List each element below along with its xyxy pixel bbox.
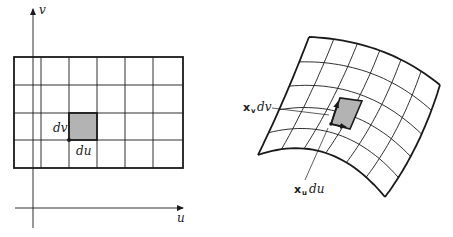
xu-du-label: x u du [294,182,324,197]
surface-edge [385,85,440,197]
xu-leader-line [305,128,328,180]
surface-patch-panel: x v dv x u du [243,37,440,197]
dv-label: dv [53,121,68,135]
parameter-domain-panel: v u dv du [14,3,185,228]
surface-base-point [329,122,333,126]
svg-text:x: x [243,101,250,114]
domain-boundary [14,57,183,168]
uv-grid [14,57,183,168]
surface-edge [258,37,309,155]
base-point [67,138,71,142]
svg-text:du: du [309,182,324,196]
v-axis-label: v [39,3,46,17]
area-element-du-dv [69,113,97,140]
surface-u-line [366,71,421,177]
surface-edge [309,37,440,85]
surface-v-line [269,129,399,178]
svg-text:u: u [302,189,307,197]
u-axis-label: u [177,211,185,225]
svg-text:x: x [294,183,301,196]
svg-text:dv: dv [257,100,272,114]
du-label: du [76,144,91,158]
surface-area-element-diagram: v u dv du x v dv x u du [0,0,453,237]
surface-u-line [304,44,357,149]
svg-text:v: v [251,107,256,115]
xv-dv-label: x v dv [243,100,272,115]
